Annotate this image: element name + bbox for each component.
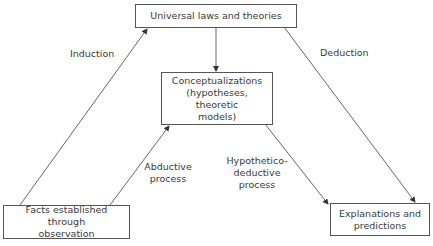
- hypothetico-label: Hypothetico- deductive process: [226, 155, 288, 191]
- universal-laws-text: Universal laws and theories: [150, 10, 281, 22]
- universal-laws-box: Universal laws and theories: [135, 4, 297, 28]
- hypothetico-line1: Hypothetico-: [226, 155, 288, 167]
- conceptualizations-line3: models): [198, 111, 236, 123]
- explanations-line1: Explanations and: [339, 208, 421, 220]
- deduction-label: Deduction: [320, 47, 369, 59]
- facts-box: Facts established through observation: [3, 205, 130, 239]
- hypothetico-line3: process: [226, 179, 288, 191]
- facts-line2: observation: [38, 228, 94, 240]
- explanations-line2: predictions: [354, 220, 407, 232]
- abductive-line1: Abductive: [144, 161, 192, 173]
- induction-label: Induction: [70, 48, 114, 60]
- explanations-box: Explanations and predictions: [330, 203, 430, 236]
- facts-line1: Facts established through: [7, 204, 126, 228]
- conceptualizations-box: Conceptualizations (hypotheses, theoreti…: [161, 72, 273, 125]
- conceptualizations-line1: Conceptualizations: [172, 75, 262, 87]
- abductive-line2: process: [144, 173, 192, 185]
- conceptualizations-line2: (hypotheses, theoretic: [165, 87, 269, 111]
- hypothetico-line2: deductive: [226, 167, 288, 179]
- abductive-label: Abductive process: [144, 161, 192, 185]
